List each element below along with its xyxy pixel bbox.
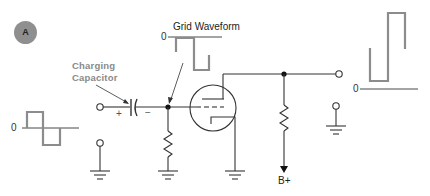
output-waveform: [370, 13, 405, 81]
grid-waveform-label: Grid Waveform: [173, 22, 240, 32]
grid-resistor-icon: [164, 131, 172, 157]
grid-waveform-pointer: [170, 63, 183, 102]
label-line-1: Charging: [72, 60, 118, 72]
output-zero-label: 0: [353, 84, 359, 94]
input-ground-terminal: [97, 140, 103, 146]
ground-icon: [326, 126, 346, 134]
figure-badge: A: [14, 21, 37, 44]
input-terminal: [97, 104, 103, 110]
ground-icon: [158, 171, 178, 179]
charging-capacitor-label: Charging Capacitor: [72, 60, 118, 84]
output-ground-terminal: [333, 103, 339, 109]
b-plus-label: B+: [278, 176, 291, 186]
grid-zero-label: 0: [161, 32, 167, 42]
ground-icon: [225, 171, 245, 179]
plate-resistor-icon: [280, 105, 288, 131]
input-waveform: [27, 112, 60, 145]
arrow-down-icon: [280, 166, 288, 173]
plus-sign: +: [116, 109, 122, 119]
label-line-2: Capacitor: [72, 72, 118, 84]
minus-sign: −: [145, 108, 151, 118]
triode-tube-icon: [190, 85, 236, 131]
capacitor-pointer: [96, 85, 128, 103]
input-zero-label: 0: [11, 123, 17, 133]
output-terminal: [336, 71, 342, 77]
ground-icon: [90, 171, 110, 179]
circuit-diagram: A Charging Capacitor Grid Waveform 0 0 0…: [0, 0, 430, 196]
grid-waveform: [176, 38, 209, 70]
